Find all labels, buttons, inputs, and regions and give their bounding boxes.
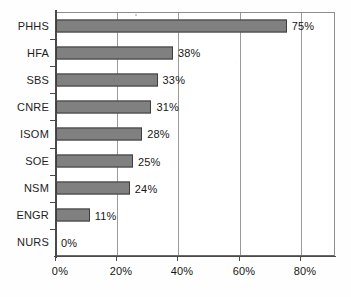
bar-track-cnre: 31% [56, 100, 335, 113]
bar-track-sbs: 33% [56, 73, 335, 86]
value-label-hfa: 38% [178, 47, 201, 59]
x-axis-label-80: 80% [294, 265, 317, 277]
x-tick-20 [116, 256, 117, 261]
bar-cnre [56, 100, 151, 113]
x-tick-80 [300, 256, 301, 261]
value-label-sbs: 33% [163, 74, 186, 86]
bar-row-nurs: NURS 0% [0, 229, 351, 256]
value-label-phhs: 75% [292, 20, 315, 32]
y-tick-5 [50, 148, 55, 149]
bar-row-isom: ISOM 28% [0, 120, 351, 147]
bar-nsm [56, 182, 130, 195]
bar-row-phhs: PHHS 75% [0, 12, 351, 39]
x-tick-0 [55, 256, 56, 261]
category-label-sbs: SBS [0, 74, 49, 86]
bar-track-nsm: 24% [56, 182, 335, 195]
category-label-isom: ISOM [0, 128, 49, 140]
bar-hfa [56, 46, 173, 59]
bar-track-nurs: 0% [56, 236, 335, 249]
bar-row-nsm: NSM 24% [0, 175, 351, 202]
value-label-engr: 11% [95, 209, 117, 221]
y-tick-2 [50, 66, 55, 67]
y-tick-4 [50, 120, 55, 121]
bar-row-soe: SOE 25% [0, 147, 351, 174]
value-label-nurs: 0% [61, 236, 77, 248]
category-label-cnre: CNRE [0, 101, 49, 113]
bar-sbs [56, 73, 158, 86]
bar-track-isom: 28% [56, 127, 335, 140]
bar-track-engr: 11% [56, 209, 335, 222]
bar-phhs [56, 19, 287, 32]
x-axis-label-20: 20% [110, 265, 133, 277]
x-axis-label-0: 0% [52, 265, 68, 277]
x-tick-60 [239, 256, 240, 261]
bar-chart: PHHS 75% HFA 38% SBS 33% CNRE 31 [0, 0, 351, 297]
value-label-soe: 25% [138, 155, 161, 167]
bar-engr [56, 209, 90, 222]
x-axis-label-60: 60% [233, 265, 256, 277]
bar-track-soe: 25% [56, 155, 335, 168]
category-label-hfa: HFA [0, 47, 49, 59]
bar-soe [56, 155, 133, 168]
y-tick-7 [50, 202, 55, 203]
bar-track-hfa: 38% [56, 46, 335, 59]
bar-row-cnre: CNRE 31% [0, 93, 351, 120]
bar-row-engr: ENGR 11% [0, 202, 351, 229]
bar-row-hfa: HFA 38% [0, 39, 351, 66]
y-tick-6 [50, 175, 55, 176]
bar-isom [56, 127, 142, 140]
value-label-cnre: 31% [156, 101, 179, 113]
category-label-engr: ENGR [0, 209, 49, 221]
category-label-soe: SOE [0, 155, 49, 167]
y-tick-1 [50, 39, 55, 40]
bar-track-phhs: 75% [56, 19, 335, 32]
x-tick-40 [177, 256, 178, 261]
category-label-nurs: NURS [0, 236, 49, 248]
y-tick-3 [50, 93, 55, 94]
x-axis-label-40: 40% [171, 265, 194, 277]
value-label-nsm: 24% [135, 182, 158, 194]
bar-row-sbs: SBS 33% [0, 66, 351, 93]
category-label-phhs: PHHS [0, 20, 49, 32]
x-axis-line [54, 256, 336, 257]
y-tick-8 [50, 229, 55, 230]
category-label-nsm: NSM [0, 182, 49, 194]
bar-rows: PHHS 75% HFA 38% SBS 33% CNRE 31 [0, 12, 351, 256]
value-label-isom: 28% [147, 128, 170, 140]
